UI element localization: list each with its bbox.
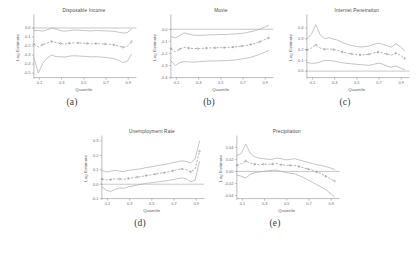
y-tick-label: 0.0 — [298, 68, 304, 73]
y-tick-label: -0.3 — [161, 63, 169, 68]
y-tick-label: -0.5 — [24, 70, 32, 75]
point-estimate-marker — [179, 48, 181, 50]
lower-ci-line — [34, 54, 132, 73]
y-axis-label: Log Estimate — [218, 154, 223, 181]
upper-ci-line — [307, 25, 405, 51]
point-estimate-marker — [104, 43, 106, 45]
x-tick-label: 0.1 — [310, 80, 315, 85]
x-tick-label: 0.5 — [218, 80, 224, 85]
y-tick-label: 0.02 — [226, 157, 234, 162]
panel-c: Internet Penetration0.00.10.20.30.40.10.… — [278, 4, 412, 118]
lower-ci-line — [102, 161, 200, 191]
x-tick-label: 0.9 — [193, 201, 198, 206]
x-tick-label: 0.7 — [306, 201, 311, 206]
y-axis-label: Log Estimate — [152, 33, 157, 60]
panel-title: Unemployment Rate — [129, 129, 175, 134]
x-axis-label: Quantile — [75, 87, 93, 92]
point-estimate-line — [237, 161, 335, 181]
point-estimate-marker — [368, 53, 370, 55]
lower-ci-line — [237, 170, 335, 197]
x-tick-label: 0.7 — [103, 80, 108, 85]
point-estimate-line — [102, 151, 200, 180]
point-estimate-marker — [315, 44, 317, 46]
x-tick-label: 0.3 — [196, 80, 202, 85]
lower-ci-line — [171, 51, 269, 66]
y-tick-label: -0.1 — [92, 196, 99, 201]
point-estimate-marker — [307, 168, 309, 170]
x-tick-label: 0.3 — [332, 80, 338, 85]
y-tick-label: 0.04 — [226, 145, 234, 150]
panel-a: Disposable Income-0.5-0.4-0.3-0.2-0.10.0… — [6, 4, 138, 118]
y-axis-label: Log Estimate — [288, 33, 293, 60]
point-estimate-marker — [333, 49, 335, 51]
y-tick-label: -0.2 — [24, 43, 31, 48]
panel-title: Disposable Income — [62, 8, 105, 13]
panel-b: Movie-0.4-0.3-0.2-0.10.00.10.30.50.70.9Q… — [143, 4, 275, 118]
point-estimate-marker — [137, 176, 139, 178]
panel-caption-d: (d) — [74, 218, 206, 228]
x-tick-label: 0.1 — [174, 80, 179, 85]
point-estimate-marker — [154, 173, 156, 175]
upper-ci-line — [102, 141, 200, 172]
y-tick-label: -0.04 — [224, 193, 234, 198]
y-tick-label: 0.1 — [93, 167, 98, 172]
y-tick-label: -0.4 — [161, 75, 169, 80]
y-axis-label: Log Estimate — [15, 33, 20, 60]
x-axis-label: Quantile — [143, 208, 161, 213]
x-tick-label: 0.3 — [127, 201, 133, 206]
plot-c: Internet Penetration0.00.10.20.30.40.10.… — [278, 4, 412, 96]
panel-caption-c: (c) — [278, 97, 412, 107]
x-tick-label: 0.9 — [328, 201, 333, 206]
y-tick-label: 0.2 — [93, 153, 98, 158]
y-tick-label: 0.3 — [298, 36, 304, 41]
y-tick-label: 0.0 — [25, 25, 31, 30]
x-tick-label: 0.9 — [262, 80, 267, 85]
y-tick-label: 0.0 — [93, 182, 99, 187]
plot-a: Disposable Income-0.5-0.4-0.3-0.2-0.10.0… — [6, 4, 138, 96]
y-tick-label: 0.1 — [298, 58, 303, 63]
x-tick-label: 0.3 — [262, 201, 268, 206]
panel-e: Precipitation-0.04-0.020.000.020.040.10.… — [208, 125, 342, 239]
point-estimate-marker — [241, 45, 243, 47]
x-tick-label: 0.9 — [125, 80, 130, 85]
panel-caption-a: (a) — [6, 97, 138, 107]
point-estimate-marker — [289, 165, 291, 167]
panel-title: Internet Penetration — [335, 8, 380, 13]
point-estimate-marker — [259, 41, 261, 43]
point-estimate-line — [34, 42, 132, 48]
upper-ci-line — [34, 28, 132, 33]
y-tick-label: -0.02 — [224, 181, 233, 186]
point-estimate-marker — [386, 53, 388, 55]
x-tick-label: 0.9 — [398, 80, 403, 85]
point-estimate-marker — [122, 46, 124, 48]
y-tick-label: 0.4 — [298, 25, 304, 30]
y-tick-label: 0.0 — [162, 27, 168, 32]
x-tick-label: 0.5 — [81, 80, 87, 85]
lower-ci-line — [307, 60, 405, 69]
x-tick-label: 0.5 — [284, 201, 290, 206]
point-estimate-marker — [77, 42, 79, 44]
y-tick-label: -0.4 — [24, 61, 32, 66]
x-axis-label: Quantile — [278, 208, 296, 213]
plot-e: Precipitation-0.04-0.020.000.020.040.10.… — [208, 125, 342, 217]
panel-caption-b: (b) — [143, 97, 275, 107]
point-estimate-marker — [60, 43, 62, 45]
panel-caption-e: (e) — [208, 218, 342, 228]
panel-title: Movie — [214, 8, 228, 13]
x-tick-label: 0.3 — [59, 80, 65, 85]
x-tick-label: 0.1 — [240, 201, 245, 206]
point-estimate-marker — [404, 58, 406, 60]
x-axis-label: Quantile — [212, 87, 230, 92]
y-tick-label: 0.2 — [298, 47, 303, 52]
point-estimate-marker — [268, 37, 270, 39]
point-estimate-marker — [263, 163, 265, 165]
y-tick-label: -0.1 — [24, 34, 31, 39]
x-tick-label: 0.1 — [105, 201, 110, 206]
y-tick-label: -0.1 — [161, 39, 168, 44]
plot-b: Movie-0.4-0.3-0.2-0.10.00.10.30.50.70.9Q… — [143, 4, 275, 96]
plot-d: Unemployment Rate-0.10.00.10.20.30.10.30… — [74, 125, 206, 217]
x-tick-label: 0.5 — [149, 201, 155, 206]
x-axis-label: Quantile — [348, 87, 366, 92]
point-estimate-marker — [131, 41, 133, 43]
point-estimate-marker — [334, 180, 336, 182]
